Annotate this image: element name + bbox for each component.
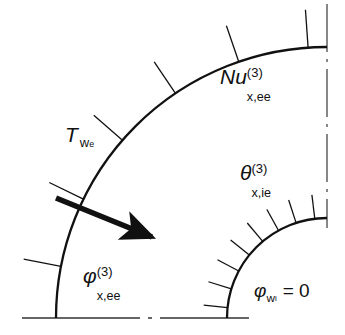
- inner-wall-tick-2: [208, 282, 231, 289]
- phi-wall-base: φ: [254, 280, 266, 301]
- theta-superscript: (3): [251, 162, 267, 175]
- outer-wall-tick-3: [94, 115, 123, 140]
- inner-wall-tick-7: [289, 200, 296, 223]
- outer-wall-tick-4: [154, 62, 175, 94]
- outer-wall-tick-1: [24, 259, 61, 266]
- phi-wall-label: φwi= 0: [254, 281, 310, 304]
- inner-wall-tick-5: [247, 223, 262, 241]
- phi-wall-subscript: w: [266, 291, 275, 304]
- wall-temperature-sub-subscript: e: [89, 139, 94, 149]
- phi-outer-subscript: x,ee: [97, 290, 121, 303]
- inner-wall-tick-3: [218, 260, 239, 271]
- phi-outer-superscript: (3): [97, 265, 113, 278]
- inner-wall-tick-8: [312, 195, 315, 219]
- nusselt-subscript: x,ee: [247, 91, 271, 104]
- wall-temperature-label: Twe: [65, 124, 94, 149]
- phi-wall-equals: = 0: [283, 280, 310, 301]
- theta-base: θ: [240, 161, 251, 184]
- theta-subscript: x,ie: [251, 187, 271, 200]
- nusselt-superscript: (3): [247, 66, 263, 79]
- nusselt-base: Nu: [220, 65, 247, 88]
- outer-wall-tick-6: [305, 10, 308, 48]
- wall-temperature-base: T: [65, 123, 78, 146]
- inner-wall-tick-4: [231, 240, 250, 255]
- wall-temperature-subscript: w: [80, 135, 89, 150]
- inner-wall-tick-1: [204, 305, 228, 308]
- inner-wall-tick-6: [267, 210, 279, 231]
- heat-transfer-quarter-annulus-figure: Nu(3)x,ee θ(3)x,ie φ(3)x,ee φwi= 0 Twe: [0, 0, 345, 335]
- theta-label: θ(3)x,ie: [240, 162, 251, 183]
- phi-outer-label: φ(3)x,ee: [83, 265, 97, 286]
- outer-wall-tick-5: [226, 26, 238, 62]
- phi-outer-base: φ: [83, 264, 97, 287]
- outer-wall-tick-2: [49, 183, 83, 200]
- phi-wall-sub-subscript: i: [275, 294, 277, 303]
- nusselt-number-label: Nu(3)x,ee: [220, 66, 247, 87]
